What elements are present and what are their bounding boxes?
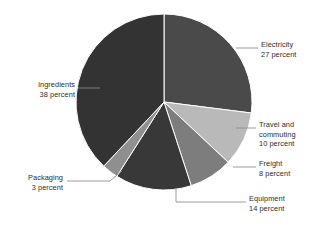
slice-label-travel-and-commuting-name-line1: Travel and [259, 120, 296, 130]
slice-label-equipment: Equipment 14 percent [249, 194, 285, 213]
slice-label-ingredients-value: 38 percent [38, 90, 75, 100]
slice-label-freight-name: Freight [259, 159, 290, 169]
slice-label-freight: Freight 8 percent [259, 159, 290, 178]
leader-line-equipment [176, 188, 246, 202]
slice-label-packaging-name: Packaging [28, 173, 63, 183]
pie-chart: Electricity 27 percent Travel and commut… [0, 0, 329, 235]
slice-label-ingredients: Ingredients 38 percent [38, 80, 75, 99]
slice-label-equipment-value: 14 percent [249, 204, 285, 214]
slice-label-travel-and-commuting-name-line2: commuting [259, 130, 296, 140]
slice-label-packaging-value: 3 percent [28, 183, 63, 193]
slice-label-travel-and-commuting-value: 10 percent [259, 139, 296, 149]
slice-label-electricity-name: Electricity [261, 40, 296, 50]
pie-slices [76, 14, 252, 190]
slice-label-freight-value: 8 percent [259, 169, 290, 179]
slice-label-equipment-name: Equipment [249, 194, 285, 204]
slice-label-electricity: Electricity 27 percent [261, 40, 296, 59]
slice-label-packaging: Packaging 3 percent [28, 173, 63, 192]
slice-label-ingredients-name: Ingredients [38, 80, 75, 90]
slice-label-travel-and-commuting: Travel and commuting 10 percent [259, 120, 296, 149]
pie-slice-electricity[interactable] [164, 14, 252, 113]
slice-label-electricity-value: 27 percent [261, 50, 296, 60]
